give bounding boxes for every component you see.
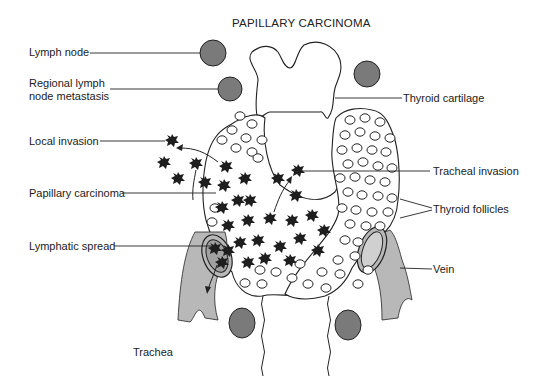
label-thyroid-cartilage: Thyroid cartilage [403, 92, 484, 105]
lymph-node [200, 40, 226, 66]
leader-thyroid-follicles-2 [400, 210, 432, 218]
label-regional-line2: node metastasis [29, 90, 109, 103]
label-tracheal-invasion: Tracheal invasion [433, 165, 519, 178]
diagram-title: PAPILLARY CARCINOMA [232, 17, 371, 29]
label-lymph-node: Lymph node [29, 46, 89, 59]
label-thyroid-follicles: Thyroid follicles [433, 203, 509, 216]
lymph-node-right-upper [354, 61, 380, 87]
label-vein: Vein [433, 263, 454, 276]
regional-lymph-node [218, 77, 242, 101]
lymph-node-lower-right [335, 310, 361, 340]
papillary-arrow-down [193, 170, 196, 200]
leader-thyroid-follicles-1 [400, 199, 432, 208]
label-lymphatic-spread: Lymphatic spread [29, 240, 115, 253]
lymph-node-lower-left [229, 308, 255, 338]
label-trachea: Trachea [133, 346, 173, 359]
label-local-invasion: Local invasion [29, 135, 99, 148]
label-regional-line1: Regional lymph [29, 77, 105, 90]
thyroid-cartilage [250, 42, 341, 118]
trachea-left-wall [262, 296, 265, 376]
trachea-right-wall [328, 296, 331, 376]
label-papillary-carcinoma: Papillary carcinoma [29, 187, 125, 200]
